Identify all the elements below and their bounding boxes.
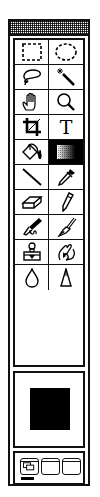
eyedropper-icon xyxy=(54,167,78,187)
paintbrush-icon xyxy=(54,217,78,237)
tool-paintbrush[interactable] xyxy=(49,215,83,240)
stacked-windows-icon xyxy=(22,462,36,473)
smudge-icon xyxy=(54,242,78,262)
tool-paint-bucket[interactable] xyxy=(15,140,49,165)
paint-bucket-icon xyxy=(20,142,44,162)
airbrush-icon xyxy=(20,217,44,237)
line-icon xyxy=(20,167,44,187)
type-icon: T xyxy=(54,117,78,137)
svg-text:T: T xyxy=(60,117,73,137)
tool-crop[interactable] xyxy=(15,115,49,140)
tool-magic-wand[interactable] xyxy=(49,65,83,90)
gradient-icon xyxy=(54,142,78,162)
rect-marquee-icon xyxy=(20,42,44,62)
tool-rectangular-marquee[interactable] xyxy=(15,40,49,65)
color-swatch-panel xyxy=(13,371,85,448)
tool-grid: T xyxy=(13,38,85,367)
palette-titlebar-drag-handle[interactable] xyxy=(10,21,88,36)
tool-blur[interactable] xyxy=(15,265,49,290)
screen-mode-full-button[interactable] xyxy=(62,458,81,475)
screen-mode-panel xyxy=(13,451,85,485)
tool-lasso[interactable] xyxy=(15,65,49,90)
pencil-icon xyxy=(54,192,78,212)
ellipse-marquee-icon xyxy=(54,42,78,62)
magnifier-icon xyxy=(54,92,78,112)
tool-line[interactable] xyxy=(15,165,49,190)
tool-type[interactable]: T xyxy=(49,115,83,140)
lasso-icon xyxy=(20,67,44,87)
selected-mode-indicator xyxy=(21,477,34,480)
hand-icon xyxy=(20,92,44,112)
tool-airbrush[interactable] xyxy=(15,215,49,240)
sharpen-cone-icon xyxy=(54,268,78,288)
water-drop-icon xyxy=(20,268,44,288)
tool-sharpen[interactable] xyxy=(49,265,83,290)
tool-eraser[interactable] xyxy=(15,190,49,215)
tool-palette: T xyxy=(8,19,90,486)
magic-wand-icon xyxy=(54,67,78,87)
screen-mode-standard-button[interactable] xyxy=(20,458,39,475)
screen-mode-full-menubar-button[interactable] xyxy=(41,458,60,475)
stamp-icon xyxy=(20,242,44,262)
tool-rubber-stamp[interactable] xyxy=(15,240,49,265)
eraser-icon xyxy=(20,192,44,212)
tool-zoom[interactable] xyxy=(49,90,83,115)
tool-eyedropper[interactable] xyxy=(49,165,83,190)
tool-hand[interactable] xyxy=(15,90,49,115)
crop-icon xyxy=(20,117,44,137)
tool-pencil[interactable] xyxy=(49,190,83,215)
tool-gradient[interactable] xyxy=(49,140,83,165)
tool-smudge[interactable] xyxy=(49,240,83,265)
foreground-color-swatch[interactable] xyxy=(30,388,70,430)
tool-elliptical-marquee[interactable] xyxy=(49,40,83,65)
